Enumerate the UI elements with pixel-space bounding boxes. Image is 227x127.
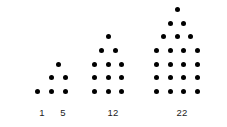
dot-row xyxy=(31,84,45,98)
dot-row xyxy=(150,84,204,98)
dot-row xyxy=(88,57,129,71)
dot xyxy=(188,34,193,39)
dot xyxy=(168,21,173,26)
dot xyxy=(106,89,111,94)
dot-pattern-figure: 151222 xyxy=(0,0,227,127)
dot xyxy=(35,89,40,94)
dot xyxy=(92,89,97,94)
dot-figure xyxy=(88,30,129,98)
figure-count-label: 5 xyxy=(45,107,81,118)
dot xyxy=(181,75,186,80)
dot xyxy=(106,75,111,80)
dot-row xyxy=(45,71,72,85)
dot xyxy=(195,48,200,53)
dot xyxy=(154,48,159,53)
dot xyxy=(168,75,173,80)
dot-figure xyxy=(31,84,45,98)
dot-figure xyxy=(150,3,204,98)
dot-row xyxy=(95,44,122,58)
dot xyxy=(161,34,166,39)
figure-count-label: 12 xyxy=(88,107,138,118)
dot xyxy=(181,89,186,94)
dot-row xyxy=(170,3,184,17)
dot xyxy=(154,62,159,67)
dot xyxy=(168,89,173,94)
dot-row xyxy=(150,44,204,58)
dot-row xyxy=(150,57,204,71)
dot xyxy=(195,89,200,94)
dot xyxy=(181,48,186,53)
dot xyxy=(119,75,124,80)
dot xyxy=(119,62,124,67)
dot-row xyxy=(150,71,204,85)
dot xyxy=(168,62,173,67)
dot xyxy=(181,62,186,67)
dot-figure xyxy=(45,57,72,98)
dot xyxy=(113,48,118,53)
dot xyxy=(168,48,173,53)
dot xyxy=(63,75,68,80)
dot xyxy=(119,89,124,94)
dot xyxy=(63,89,68,94)
dot-row xyxy=(157,30,198,44)
dot xyxy=(195,75,200,80)
dot-row xyxy=(164,16,191,30)
dot xyxy=(92,75,97,80)
figure-count-label: 22 xyxy=(150,107,214,118)
dot xyxy=(92,62,97,67)
dot-row xyxy=(52,57,66,71)
dot-row xyxy=(88,71,129,85)
dot xyxy=(99,48,104,53)
dot-row xyxy=(102,30,116,44)
dot-row xyxy=(45,84,72,98)
dot xyxy=(106,62,111,67)
dot xyxy=(49,89,54,94)
dot xyxy=(175,7,180,12)
dot-row xyxy=(88,84,129,98)
dot xyxy=(56,62,61,67)
dot xyxy=(195,62,200,67)
dot xyxy=(154,89,159,94)
dot xyxy=(154,75,159,80)
dot xyxy=(49,75,54,80)
dot xyxy=(106,34,111,39)
dot xyxy=(175,34,180,39)
dot xyxy=(181,21,186,26)
